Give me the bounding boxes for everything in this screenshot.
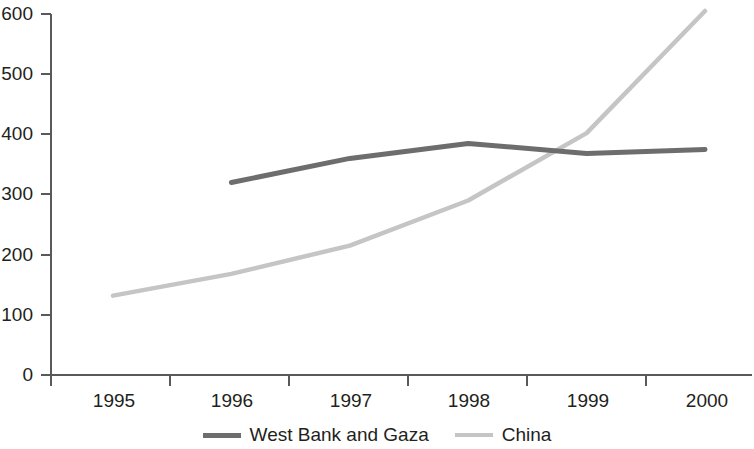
line-chart: 600 500 400 300 200 100 0 1995 1996 1997… xyxy=(0,0,754,449)
x-axis-tick-label: 1995 xyxy=(93,390,135,412)
y-axis-tick-label: 0 xyxy=(0,364,33,386)
legend-label: China xyxy=(502,424,552,446)
chart-plot-area xyxy=(0,0,754,449)
legend-item-china: China xyxy=(455,424,552,446)
y-axis-tick-label: 500 xyxy=(0,63,33,85)
y-axis-ticks xyxy=(41,14,51,375)
chart-legend: West Bank and Gaza China xyxy=(0,424,754,446)
x-axis-tick-label: 2000 xyxy=(686,390,728,412)
legend-swatch-icon xyxy=(203,433,241,438)
y-axis-tick-label: 300 xyxy=(0,183,33,205)
legend-label: West Bank and Gaza xyxy=(250,424,429,446)
x-axis-tick-label: 1998 xyxy=(448,390,490,412)
y-axis-tick-label: 600 xyxy=(0,3,33,25)
series-line-west-bank-and-gaza xyxy=(231,143,705,182)
x-axis-tick-label: 1997 xyxy=(330,390,372,412)
y-axis-tick-label: 400 xyxy=(0,123,33,145)
y-axis-tick-label: 200 xyxy=(0,244,33,266)
x-axis-tick-label: 1996 xyxy=(211,390,253,412)
y-axis-tick-label: 100 xyxy=(0,304,33,326)
legend-item-west-bank-and-gaza: West Bank and Gaza xyxy=(203,424,429,446)
x-axis-ticks xyxy=(51,375,646,386)
legend-swatch-icon xyxy=(455,433,493,437)
x-axis-tick-label: 1999 xyxy=(567,390,609,412)
